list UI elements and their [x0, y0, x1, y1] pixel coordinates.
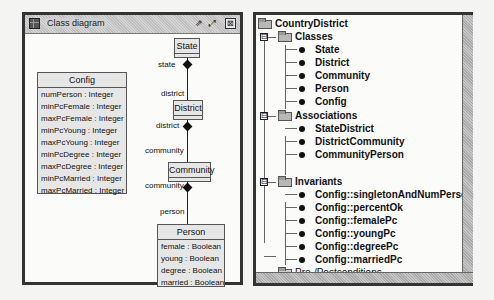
tree-item-association[interactable]: CommunityPerson [299, 148, 404, 161]
class-compartment [175, 53, 199, 57]
tree-item-class[interactable]: Config [299, 95, 347, 108]
tree-item-class[interactable]: District [299, 56, 349, 69]
window-title: Class diagram [45, 18, 107, 28]
tree-item-association[interactable]: StateDistrict [299, 122, 374, 135]
attribute: maxPcFemale : Integer [41, 113, 123, 125]
tree-node-label: CountryDistrict [275, 18, 348, 29]
tree-guide-line [285, 220, 297, 221]
class-name: Community [169, 163, 210, 177]
horizontal-scrollbar[interactable] [256, 272, 473, 283]
attribute: married : Boolean [161, 277, 221, 289]
maximize-icon[interactable]: ⤢ [207, 18, 218, 29]
class-bullet-icon [299, 73, 305, 79]
tree-node-label: Config::singletonAndNumPerson [315, 189, 473, 200]
tree-guide-line [264, 256, 276, 257]
tree-guide-line [285, 207, 297, 208]
class-compartment [169, 177, 210, 181]
class-box-district[interactable]: District [173, 100, 203, 120]
class-compartment [174, 115, 202, 119]
class-box-config[interactable]: Config numPerson : Integer minPcFemale :… [37, 72, 127, 194]
tree-guide-line [285, 45, 286, 109]
diagram-canvas[interactable]: state district district community commun… [25, 34, 240, 282]
tree-node-label: State [315, 44, 339, 55]
tree-guide-line [285, 141, 297, 142]
tree-guide-line [268, 37, 276, 38]
tree-node-label: Config::percentOk [315, 202, 403, 213]
tree-group-associations[interactable]: Associations [278, 109, 357, 122]
attribute: minPcMarried : Integer [41, 173, 123, 185]
tree-guide-line [285, 233, 297, 234]
class-box-person[interactable]: Person female : Boolean young : Boolean … [157, 224, 225, 287]
tree-node-label: Person [315, 83, 349, 94]
role-label-person: person [160, 207, 184, 216]
tree-group-classes[interactable]: Classes [278, 30, 333, 43]
tree-node-label: Config [315, 96, 347, 107]
class-box-state[interactable]: State [174, 38, 200, 58]
class-diagram-window: Class diagram ⇗ ⤢ ⊠ state district distr… [22, 12, 243, 285]
class-bullet-icon [299, 60, 305, 66]
class-bullet-icon [299, 99, 305, 105]
composition-diamond-icon [183, 122, 193, 132]
tree-item-class[interactable]: Person [299, 82, 349, 95]
tree-item-class[interactable]: Community [299, 69, 370, 82]
tree-guide-line [285, 259, 297, 260]
collapse-toggle-icon[interactable]: ⊟ [260, 178, 268, 186]
tree-guide-line [285, 128, 297, 129]
tree-guide-line [285, 49, 297, 50]
tree-group-invariants[interactable]: Invariants [278, 175, 342, 188]
folder-icon [258, 20, 272, 29]
class-bullet-icon [299, 47, 305, 53]
close-icon[interactable]: ⊠ [225, 18, 236, 29]
tree-item-invariant[interactable]: Config::singletonAndNumPerson [299, 188, 473, 201]
tree-item-invariant[interactable]: Config::percentOk [299, 201, 403, 214]
tree-item-class[interactable]: State [299, 43, 339, 56]
invariant-bullet-icon [299, 205, 305, 211]
attribute: young : Boolean [161, 253, 221, 265]
attribute: minPcYoung : Integer [41, 125, 123, 137]
tree-item-invariant[interactable]: Config::femalePc [299, 214, 397, 227]
class-box-community[interactable]: Community [168, 162, 211, 182]
class-bullet-icon [299, 86, 305, 92]
tree-item-invariant[interactable]: Config::marriedPc [299, 253, 402, 266]
tree-guide-line [268, 182, 276, 183]
tree-node-label: Invariants [295, 176, 342, 187]
tree-guide-line [268, 116, 276, 117]
collapse-toggle-icon[interactable]: ⊟ [260, 112, 268, 120]
role-label-district: district [156, 121, 179, 130]
composition-diamond-icon [183, 183, 193, 193]
tree-guide-line [285, 88, 297, 89]
association-bullet-icon [299, 139, 305, 145]
vertical-scrollbar[interactable] [462, 15, 473, 273]
tree-guide-line [285, 62, 297, 63]
tree-node-label: Config::femalePc [315, 215, 397, 226]
attribute: degree : Boolean [161, 265, 221, 277]
collapse-toggle-icon[interactable]: ⊟ [260, 33, 268, 41]
tree-node-label: Config::degreePc [315, 241, 398, 252]
detach-icon[interactable]: ⇗ [193, 18, 204, 29]
attribute-list: female : Boolean young : Boolean degree … [158, 240, 224, 290]
tree-node-label: StateDistrict [315, 123, 374, 134]
folder-icon [278, 178, 292, 187]
folder-icon [278, 33, 292, 42]
diagram-app-icon [29, 18, 40, 29]
invariant-bullet-icon [299, 231, 305, 237]
tree-node-label: CommunityPerson [315, 149, 404, 160]
folder-icon [278, 112, 292, 121]
tree-guide-line [285, 154, 297, 155]
tree-root-countrydistrict[interactable]: CountryDistrict [258, 17, 348, 30]
association-bullet-icon [299, 126, 305, 132]
tree-item-invariant[interactable]: Config::youngPc [299, 227, 396, 240]
tree-item-invariant[interactable]: Config::degreePc [299, 240, 398, 253]
class-name: District [174, 101, 202, 115]
attribute: numPerson : Integer [41, 89, 123, 101]
tree-guide-line [285, 75, 297, 76]
tree-node-label: Associations [295, 110, 357, 121]
invariant-bullet-icon [299, 218, 305, 224]
window-titlebar[interactable]: Class diagram ⇗ ⤢ ⊠ [25, 15, 240, 34]
tree-guide-line [285, 246, 297, 247]
tree-node-label: DistrictCommunity [315, 136, 404, 147]
attribute-list: numPerson : Integer minPcFemale : Intege… [38, 88, 126, 198]
tree-guide-line [285, 101, 297, 102]
tree-item-association[interactable]: DistrictCommunity [299, 135, 404, 148]
role-label-state: state [158, 60, 175, 69]
